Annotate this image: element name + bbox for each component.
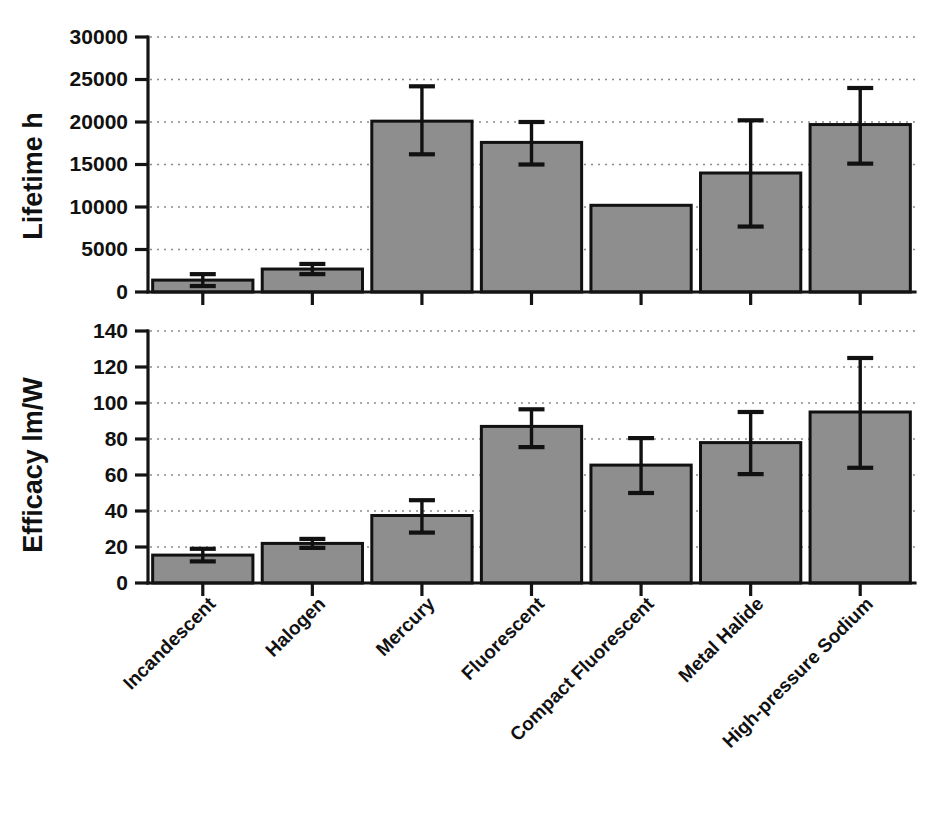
bar-fluorescent <box>481 426 581 583</box>
y-tick-label-5000: 5000 <box>81 237 128 260</box>
lifetime-axis-title: Lifetime h <box>18 112 48 240</box>
chart-canvas: 050001000015000200002500030000 Lifetime … <box>0 0 934 838</box>
y-tick-label-0: 0 <box>116 571 128 594</box>
y-tick-label-30000: 30000 <box>70 25 128 48</box>
y-tick-label-20000: 20000 <box>70 110 128 133</box>
y-tick-label-25000: 25000 <box>70 67 128 90</box>
y-tick-label-140: 140 <box>93 319 128 342</box>
y-tick-label-15000: 15000 <box>70 152 128 175</box>
lamp-performance-figure: 050001000015000200002500030000 Lifetime … <box>0 0 934 838</box>
y-tick-label-60: 60 <box>105 463 128 486</box>
y-tick-label-100: 100 <box>93 391 128 414</box>
efficacy-axis-title: Efficacy lm/W <box>18 377 48 553</box>
y-tick-label-40: 40 <box>105 499 128 522</box>
y-tick-label-10000: 10000 <box>70 195 128 218</box>
bar-compact-fluorescent <box>591 205 691 292</box>
y-tick-label-120: 120 <box>93 355 128 378</box>
y-tick-label-80: 80 <box>105 427 128 450</box>
y-tick-label-20: 20 <box>105 535 128 558</box>
y-tick-label-0: 0 <box>116 280 128 303</box>
